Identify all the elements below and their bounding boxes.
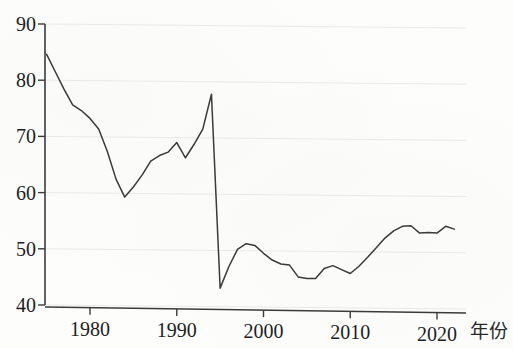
y-tick-mark-group [38,24,45,305]
y-tick-label: 60 [16,182,36,204]
chart-page: 405060708090 19801990200020102020 年份 [0,0,513,348]
y-tick-label: 50 [16,238,36,260]
x-tick-label: 2000 [244,320,284,342]
y-tick-label: 80 [16,69,36,91]
y-tick-label: 40 [16,294,36,316]
y-tick-label-group: 405060708090 [16,13,36,316]
x-axis-title: 年份 [470,320,508,342]
x-tick-label: 2020 [417,323,457,345]
gridline [45,136,466,140]
data-series-line [47,54,455,288]
gridline [45,193,466,197]
x-tick-label: 1980 [70,318,110,340]
gridline [45,249,466,253]
line-chart: 405060708090 19801990200020102020 年份 [0,0,513,348]
gridline [45,80,466,84]
y-tick-label: 70 [16,125,36,147]
gridline [45,24,466,28]
y-tick-label: 90 [16,13,36,35]
x-tick-label: 1990 [157,319,197,341]
gridline-group [45,24,466,309]
x-tick-label-group: 19801990200020102020 [70,318,457,345]
x-tick-label: 2010 [330,321,370,343]
